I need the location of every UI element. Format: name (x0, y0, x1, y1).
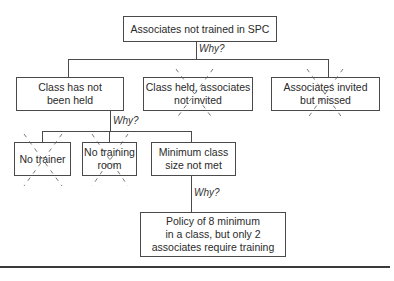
cause-box-no-trainer: No trainer (14, 142, 71, 176)
connector-root-down (196, 42, 197, 59)
cause-box-not-invited: Class held, associates not invited (143, 77, 253, 111)
cause-box-no-training-room: No training room (82, 142, 137, 176)
cause-box-invited-missed: Associates invited but missed (271, 77, 380, 111)
cause-label: Associates invited but missed (283, 81, 367, 107)
connector-level3-b (109, 131, 110, 142)
connector-level3-down (110, 111, 111, 131)
root-cause-box: Policy of 8 minimum in a class, but only… (140, 212, 286, 257)
root-problem-label: Associates not trained in SPC (131, 23, 270, 36)
connector-level3-a (42, 131, 43, 142)
why-label-2: Why? (113, 115, 139, 126)
cause-label: Class has not been held (38, 81, 102, 107)
why-label-1: Why? (199, 43, 225, 54)
connector-root-cause-down (191, 176, 192, 212)
bottom-divider (0, 266, 390, 268)
connector-level2-a (68, 59, 69, 77)
root-problem-box: Associates not trained in SPC (123, 16, 277, 42)
why-label-3: Why? (194, 187, 220, 198)
cause-label: No trainer (19, 153, 65, 166)
cause-label: Class held, associates not invited (146, 81, 250, 107)
connector-level3-c (191, 131, 192, 142)
cause-box-class-not-held: Class has not been held (16, 77, 124, 111)
cause-label: Minimum class size not met (159, 146, 228, 172)
connector-level2-c (328, 59, 329, 77)
cause-box-min-class-size: Minimum class size not met (151, 142, 236, 176)
root-cause-label: Policy of 8 minimum in a class, but only… (152, 215, 275, 254)
connector-level2-horizontal (68, 59, 329, 60)
connector-level3-horizontal (42, 131, 192, 132)
cause-label: No training room (84, 146, 135, 172)
